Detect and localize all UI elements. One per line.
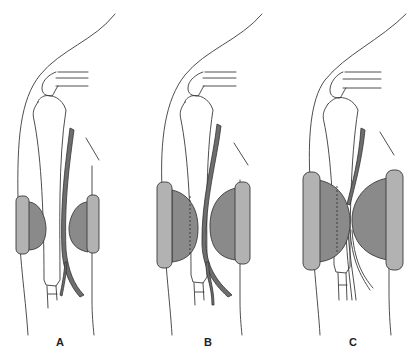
- panel-b: [157, 14, 262, 335]
- panel-label-a: A: [50, 336, 70, 348]
- panel-c: [303, 14, 406, 335]
- plate-right: [87, 195, 99, 253]
- panel-label-b: B: [198, 336, 218, 348]
- anatomy-diagram: [0, 0, 416, 361]
- panel-a: [16, 14, 115, 335]
- figure: A B C: [0, 0, 416, 361]
- cushion-right: [69, 202, 88, 252]
- bone: [33, 96, 66, 286]
- panel-label-c: C: [343, 336, 363, 348]
- plate-left: [16, 196, 29, 254]
